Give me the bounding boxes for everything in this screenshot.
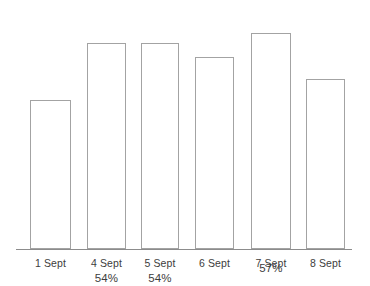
category-label: 8 Sept <box>310 257 341 270</box>
category-label: 5 Sept <box>145 257 176 270</box>
category-axis: 1 Sept 4 Sept 5 Sept 6 Sept 7 Sept 8 Sep… <box>0 253 370 277</box>
category-label: 6 Sept <box>199 257 230 270</box>
bar-rect[interactable] <box>195 57 234 249</box>
x-axis-line <box>16 249 352 250</box>
bar-rect[interactable] <box>30 100 71 249</box>
category-label: 4 Sept <box>91 257 122 270</box>
bar-rect[interactable] <box>87 43 126 249</box>
bar-rect[interactable] <box>251 33 291 249</box>
bar-chart: 39% 54% 54% 50% 57% 45% 1 Sept 4 Sept 5 … <box>0 0 370 286</box>
bar-rect[interactable] <box>306 79 345 249</box>
plot-area: 39% 54% 54% 50% 57% 45% <box>0 0 370 249</box>
category-label: 1 Sept <box>35 257 66 270</box>
bar-rect[interactable] <box>141 43 179 249</box>
category-label: 7 Sept <box>256 257 287 270</box>
